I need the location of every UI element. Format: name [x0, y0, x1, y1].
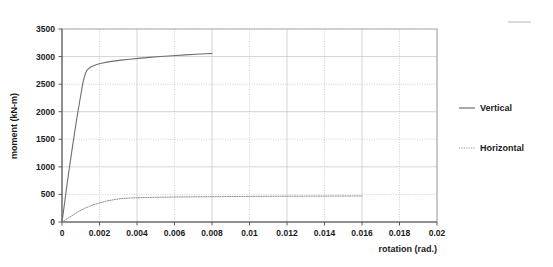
legend: Vertical Horizontal: [459, 103, 524, 153]
gridlines-group: [62, 29, 437, 222]
moment-rotation-chart: 00.0020.0040.0060.0080.010.0120.0140.016…: [0, 0, 553, 267]
x-tick-label: 0.016: [351, 228, 373, 238]
y-tick-label: 2000: [36, 107, 55, 117]
legend-label-vertical: Vertical: [480, 103, 512, 113]
legend-label-horizontal: Horizontal: [480, 143, 524, 153]
x-tick-label: 0.018: [389, 228, 411, 238]
x-axis-title: rotation (rad.): [379, 244, 438, 254]
x-tick-labels-group: 00.0020.0040.0060.0080.010.0120.0140.016…: [60, 228, 446, 238]
x-tick-label: 0.002: [89, 228, 111, 238]
x-tick-label: 0.02: [429, 228, 446, 238]
x-tick-label: 0.006: [164, 228, 186, 238]
x-tick-label: 0.008: [201, 228, 223, 238]
x-tick-label: 0.004: [126, 228, 148, 238]
y-tick-label: 1500: [36, 134, 55, 144]
y-tick-labels-group: 0500100015002000250030003500: [36, 24, 55, 227]
x-tick-label: 0.01: [241, 228, 258, 238]
x-tick-label: 0.014: [314, 228, 336, 238]
chart-canvas: 00.0020.0040.0060.0080.010.0120.0140.016…: [0, 0, 553, 267]
y-tick-label: 1000: [36, 162, 55, 172]
y-axis-title: moment (kN-m): [9, 93, 19, 159]
y-tick-label: 3500: [36, 24, 55, 34]
y-tick-label: 2500: [36, 79, 55, 89]
y-tick-label: 500: [41, 189, 55, 199]
x-tick-label: 0: [60, 228, 65, 238]
y-tick-label: 3000: [36, 52, 55, 62]
x-tick-label: 0.012: [276, 228, 298, 238]
y-tick-label: 0: [50, 217, 55, 227]
